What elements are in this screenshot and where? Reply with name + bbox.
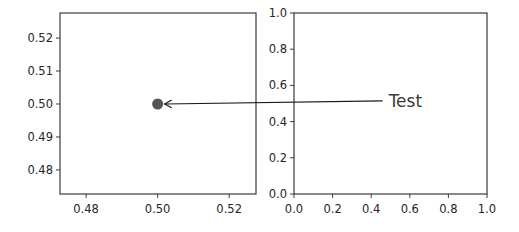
x-tick-label: 0.52	[216, 202, 242, 216]
x-tick-label: 0.6	[401, 202, 419, 216]
x-tick-label: 0.50	[145, 202, 171, 216]
x-tick-label: 0.4	[362, 202, 380, 216]
right-axes: 0.00.20.40.60.81.00.00.20.40.60.81.0	[269, 6, 496, 216]
x-tick-label: 0.8	[439, 202, 457, 216]
left-axes: 0.480.500.520.480.490.500.510.52	[27, 13, 256, 216]
x-tick-label: 0.48	[73, 202, 99, 216]
annotation-arrow-line	[165, 101, 383, 104]
y-tick-label: 0.0	[269, 187, 287, 201]
y-tick-label: 0.48	[27, 163, 53, 177]
x-tick-label: 1.0	[478, 202, 496, 216]
y-tick-label: 0.52	[27, 31, 53, 45]
data-point-marker	[152, 98, 163, 109]
y-tick-label: 0.8	[269, 42, 287, 56]
y-tick-label: 0.6	[269, 78, 287, 92]
y-tick-label: 0.4	[269, 115, 287, 129]
figure: 0.480.500.520.480.490.500.510.52 0.00.20…	[0, 0, 519, 232]
x-tick-label: 0.0	[285, 202, 303, 216]
y-tick-label: 1.0	[269, 6, 287, 20]
x-tick-label: 0.2	[323, 202, 341, 216]
chart-canvas: 0.480.500.520.480.490.500.510.52 0.00.20…	[0, 0, 519, 232]
y-tick-label: 0.2	[269, 151, 287, 165]
annotation-text: Test	[388, 91, 423, 111]
y-tick-label: 0.49	[27, 130, 53, 144]
y-tick-label: 0.50	[27, 97, 53, 111]
y-tick-label: 0.51	[27, 64, 53, 78]
